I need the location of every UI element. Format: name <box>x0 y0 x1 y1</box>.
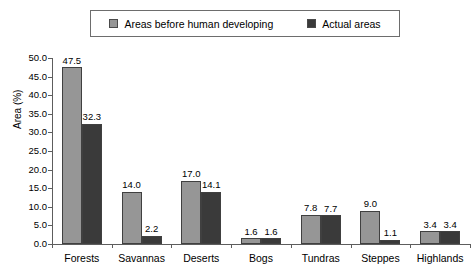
x-axis-tick-mark <box>112 244 113 248</box>
bar <box>62 67 82 244</box>
legend-label-series-2: Actual areas <box>322 18 380 30</box>
y-axis-tick-mark <box>48 114 52 115</box>
bar-value-label: 2.2 <box>145 224 158 234</box>
bar <box>380 240 400 244</box>
bar-value-label: 17.0 <box>182 169 201 179</box>
bar <box>360 211 380 244</box>
legend-swatch-icon-series-2 <box>307 19 316 28</box>
bar-value-label: 14.1 <box>202 180 221 190</box>
bar-value-label: 14.0 <box>122 180 141 190</box>
bar <box>321 215 341 244</box>
legend-entry-series-1: Areas before human developing <box>109 18 273 30</box>
bar <box>440 231 460 244</box>
x-axis-category-label: Highlands <box>417 252 464 264</box>
bar-value-label: 7.7 <box>324 204 337 214</box>
bar <box>241 238 261 244</box>
x-axis-tick-mark <box>171 244 172 248</box>
y-axis-tick-label: 25.0 <box>11 146 47 156</box>
legend-label-series-1: Areas before human developing <box>124 18 273 30</box>
bar <box>261 238 281 244</box>
y-axis-tick-mark <box>48 170 52 171</box>
bar-value-label: 1.6 <box>264 227 277 237</box>
bar-value-label: 47.5 <box>63 56 82 66</box>
x-axis-category-label: Deserts <box>183 252 219 264</box>
y-axis-tick-label: 50.0 <box>11 53 47 63</box>
x-axis-tick-mark <box>231 244 232 248</box>
bar <box>420 231 440 244</box>
bar-value-label: 32.3 <box>83 112 102 122</box>
x-axis-category-label: Bogs <box>249 252 273 264</box>
legend-entry-series-2: Actual areas <box>307 18 380 30</box>
x-axis-tick-mark <box>351 244 352 248</box>
chart-legend: Areas before human developing Actual are… <box>90 10 400 37</box>
y-axis-tick-mark <box>48 151 52 152</box>
bar <box>181 181 201 244</box>
bar-value-label: 1.1 <box>384 228 397 238</box>
bar <box>301 215 321 244</box>
y-axis-tick-label: 10.0 <box>11 202 47 212</box>
y-axis-tick-label: 15.0 <box>11 183 47 193</box>
bar <box>142 236 162 244</box>
bar <box>82 124 102 244</box>
bar-value-label: 7.8 <box>304 203 317 213</box>
x-axis-tick-mark <box>52 244 53 248</box>
x-axis-category-label: Tundras <box>302 252 340 264</box>
y-axis-tick-label: 0.0 <box>11 239 47 249</box>
plot-area: 0.05.010.015.020.025.030.035.040.045.050… <box>52 58 470 244</box>
x-axis-category-label: Savannas <box>118 252 165 264</box>
y-axis-tick-mark <box>48 188 52 189</box>
x-axis-tick-mark <box>470 244 471 248</box>
x-axis-tick-mark <box>410 244 411 248</box>
bar-value-label: 3.4 <box>444 220 457 230</box>
x-axis-tick-mark <box>291 244 292 248</box>
y-axis-tick-mark <box>48 58 52 59</box>
y-axis-tick-mark <box>48 77 52 78</box>
x-axis-category-label: Forests <box>64 252 99 264</box>
y-axis-tick-mark <box>48 95 52 96</box>
y-axis-tick-label: 5.0 <box>11 221 47 231</box>
y-axis-tick-label: 30.0 <box>11 128 47 138</box>
legend-swatch-icon-series-1 <box>109 19 118 28</box>
bar-value-label: 9.0 <box>364 199 377 209</box>
y-axis-tick-mark <box>48 225 52 226</box>
x-axis-category-label: Steppes <box>361 252 400 264</box>
y-axis-tick-mark <box>48 132 52 133</box>
y-axis-tick-label: 35.0 <box>11 109 47 119</box>
bar-value-label: 1.6 <box>244 227 257 237</box>
y-axis-tick-label: 20.0 <box>11 165 47 175</box>
y-axis-tick-label: 45.0 <box>11 72 47 82</box>
bar <box>122 192 142 244</box>
bar-value-label: 3.4 <box>424 220 437 230</box>
y-axis-tick-mark <box>48 207 52 208</box>
x-axis-line <box>52 244 471 245</box>
bar <box>201 192 221 244</box>
y-axis-tick-label: 40.0 <box>11 90 47 100</box>
